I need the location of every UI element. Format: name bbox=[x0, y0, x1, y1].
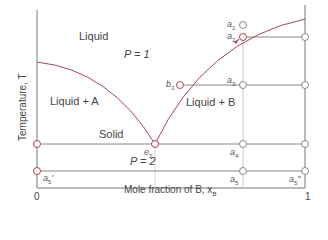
region-liquid: Liquid bbox=[79, 31, 108, 42]
label-e2-sub: 2 bbox=[149, 153, 152, 159]
label-a5-dprime-mark: " bbox=[297, 174, 300, 184]
label-a5: a5 bbox=[230, 175, 238, 186]
region-liquid-a: Liquid + A bbox=[50, 96, 99, 107]
label-b3: b3 bbox=[166, 80, 174, 91]
region-p1: P = 1 bbox=[124, 49, 150, 60]
label-a5-dprime: a5" bbox=[289, 175, 301, 186]
x-axis-label: Mole fraction of B, xB bbox=[124, 185, 216, 197]
marker-a5-prime bbox=[34, 168, 41, 175]
marker-a4 bbox=[240, 141, 247, 148]
region-solid: Solid bbox=[99, 129, 123, 140]
y-axis-label-text: Temperature, T bbox=[17, 73, 28, 141]
marker-a1 bbox=[240, 22, 247, 29]
marker-a5-dprime bbox=[302, 168, 309, 175]
label-a1: a1 bbox=[227, 20, 235, 31]
y-axis-label: Temperature, T bbox=[18, 73, 28, 141]
x-axis-label-text: Mole fraction of B, x bbox=[124, 184, 212, 195]
label-a5-prime: a5' bbox=[43, 174, 53, 185]
x-tick-1: 1 bbox=[305, 192, 311, 200]
label-a5-sub: 5 bbox=[235, 180, 238, 186]
label-a4-sub: 4 bbox=[235, 153, 238, 159]
x-axis-label-sub: B bbox=[212, 191, 216, 197]
label-a3-sub: 3 bbox=[232, 81, 235, 87]
label-b3-sub: 3 bbox=[171, 85, 174, 91]
label-a2: a2 bbox=[227, 32, 235, 43]
x-tick-0: 0 bbox=[34, 192, 40, 200]
marker-b3 bbox=[177, 82, 184, 89]
label-a4: a4 bbox=[230, 148, 238, 159]
marker-a5 bbox=[240, 168, 247, 175]
region-liquid-b: Liquid + B bbox=[186, 97, 235, 108]
marker-left-eutectic bbox=[34, 141, 41, 148]
label-a5-prime-mark: ' bbox=[51, 173, 53, 183]
marker-a3 bbox=[240, 82, 247, 89]
marker-a4-right bbox=[302, 141, 309, 148]
label-e2: e2 bbox=[144, 148, 152, 159]
marker-a2-right bbox=[302, 34, 309, 41]
label-a1-sub: 1 bbox=[232, 25, 235, 31]
marker-a2 bbox=[240, 34, 247, 41]
marker-a3-right bbox=[302, 82, 309, 89]
label-a3: a3 bbox=[227, 76, 235, 87]
marker-e2 bbox=[152, 141, 159, 148]
label-a2-sub: 2 bbox=[232, 37, 235, 43]
